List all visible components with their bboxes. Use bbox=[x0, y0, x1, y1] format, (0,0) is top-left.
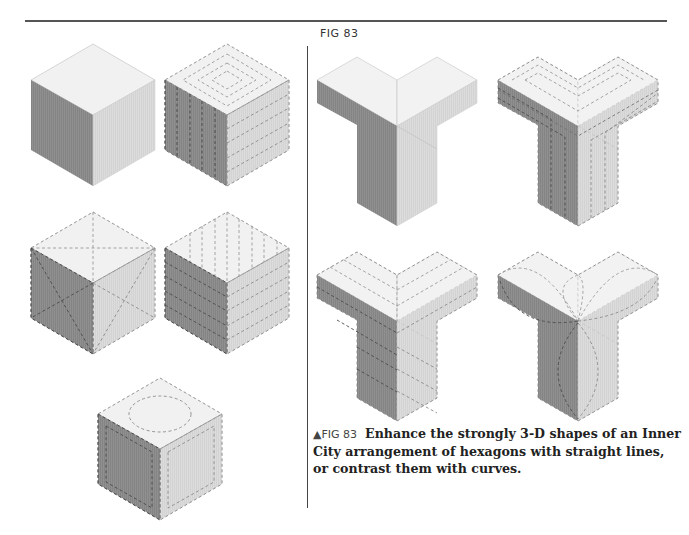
caption-figure-number: FIG 83 bbox=[321, 428, 357, 441]
y-shape-parallel-lines bbox=[317, 252, 477, 421]
caption-text: Enhance the strongly 3-D shapes of an In… bbox=[313, 426, 681, 476]
cube-diagonal-cross bbox=[31, 212, 155, 354]
cube-plain bbox=[31, 44, 155, 186]
y-shape-echo-lines bbox=[498, 57, 658, 226]
figure-caption: ▲FIG 83Enhance the strongly 3-D shapes o… bbox=[313, 425, 683, 477]
cube-parallel-lines bbox=[165, 212, 289, 354]
y-shape-plain bbox=[317, 57, 477, 226]
cube-circle-inset bbox=[98, 378, 222, 520]
cube-concentric-lines bbox=[165, 44, 289, 186]
y-shape-curves bbox=[498, 252, 658, 421]
